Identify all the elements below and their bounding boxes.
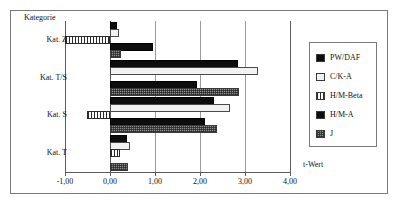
gray-texture-swatch [316, 130, 325, 138]
x-axis-tick [155, 172, 156, 176]
bar-j-kats [110, 125, 217, 133]
x-axis-tick-label: 1,00 [148, 177, 162, 186]
solid-white-swatch [316, 73, 325, 81]
x-axis-tick [110, 172, 111, 176]
chart-legend: PW/DAFC/K-AH/M-BetaH/M-AJ [309, 42, 377, 147]
legend-item-hmbeta[interactable]: H/M-Beta [316, 86, 376, 105]
x-axis-tick [245, 172, 246, 176]
x-axis-tick-label: -1,00 [57, 177, 74, 186]
legend-item-hma[interactable]: H/M-A [316, 105, 376, 124]
x-axis-tick-label: 2,00 [193, 177, 207, 186]
x-axis-tick [290, 172, 291, 176]
category-label-katz: Kat. Z [47, 35, 67, 44]
gridline-3,00 [245, 21, 246, 172]
x-axis-title: t-Wert [303, 160, 323, 169]
x-axis-tick-label: 3,00 [238, 177, 252, 186]
category-label-katt: Kat. T [47, 148, 67, 157]
x-axis-tick-label: 0,00 [103, 177, 117, 186]
legend-item-cka[interactable]: C/K-A [316, 67, 376, 86]
gridline-4,00 [290, 21, 291, 172]
y-axis-title: Kategorie [24, 13, 56, 22]
vertical-hatch-swatch [316, 92, 325, 100]
bar-j-katz [110, 50, 121, 58]
legend-item-pwdaf[interactable]: PW/DAF [316, 48, 376, 67]
bar-hmbeta-kats [87, 111, 110, 119]
legend-item-label: H/M-A [330, 110, 354, 119]
bar-cka-kats [110, 104, 230, 112]
solid-black-swatch [316, 111, 325, 119]
x-axis-line [65, 172, 290, 173]
x-axis-tick [65, 172, 66, 176]
category-label-kats: Kat. S [47, 110, 67, 119]
legend-item-label: H/M-Beta [330, 91, 362, 100]
bar-cka-katz [110, 29, 119, 37]
x-axis-tick-label: 4,00 [283, 177, 297, 186]
plot-area [65, 21, 290, 172]
bar-hmbeta-katt [110, 149, 120, 157]
legend-item-label: J [330, 129, 333, 138]
category-label-katts: Kat. T/S [40, 73, 67, 82]
bar-j-katts [110, 88, 239, 96]
bar-hmbeta-katz [65, 36, 110, 44]
legend-item-label: C/K-A [330, 72, 352, 81]
legend-item-label: PW/DAF [330, 53, 360, 62]
bar-cka-katts [110, 67, 258, 75]
legend-item-j[interactable]: J [316, 124, 376, 143]
x-axis-tick [200, 172, 201, 176]
bar-j-katt [110, 163, 128, 171]
solid-black-swatch [316, 54, 325, 62]
